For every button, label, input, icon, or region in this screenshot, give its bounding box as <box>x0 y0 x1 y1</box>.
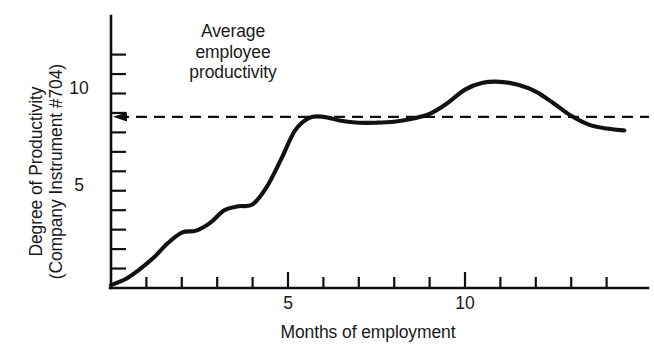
x-tick-label-10: 10 <box>447 293 483 314</box>
y-tick-label-5: 5 <box>61 175 97 196</box>
average-employee-productivity-annotation: Average employee productivity <box>140 21 326 83</box>
annotation-line-2: employee <box>140 42 326 63</box>
x-axis-title: Months of employment <box>111 322 625 343</box>
x-tick-label-5: 5 <box>270 293 306 314</box>
productivity-curve <box>111 82 624 285</box>
y-tick-label-10: 10 <box>61 78 97 99</box>
productivity-learning-curve-chart: Degree of Productivity (Company Instrume… <box>0 0 654 359</box>
annotation-line-3: productivity <box>140 62 326 83</box>
annotation-line-1: Average <box>140 21 326 42</box>
x-axis-ticks <box>146 272 606 287</box>
chart-canvas <box>0 0 654 359</box>
y-axis-ticks <box>112 55 126 269</box>
